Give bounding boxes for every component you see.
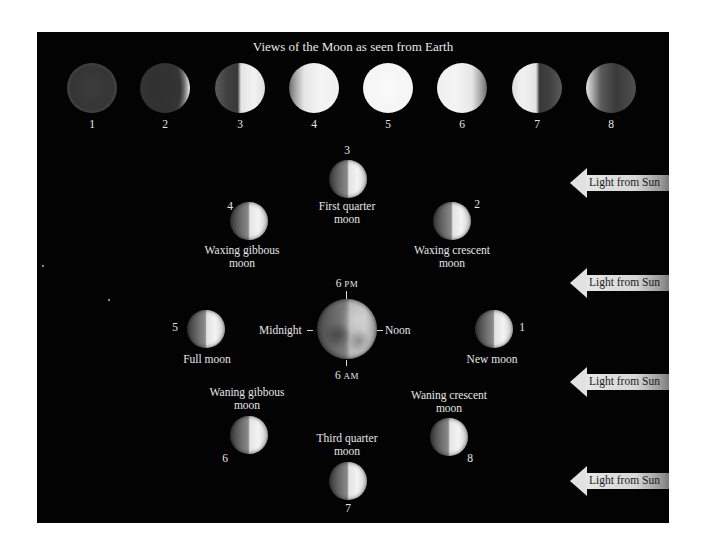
- orbit-moon-number-2: 2: [467, 198, 487, 210]
- orbit-moon-7: [329, 462, 367, 500]
- arrow-left-icon: [570, 168, 587, 198]
- tick-6pm: [346, 291, 347, 299]
- top-moon-1: [67, 63, 117, 113]
- tick-midnight: [307, 330, 313, 331]
- top-moon-number: 3: [230, 118, 250, 130]
- orbit-moon-3: [329, 160, 367, 198]
- arrow-left-icon: [570, 367, 587, 397]
- star-dot: [108, 299, 110, 301]
- orbit-moon-number-3: 3: [337, 144, 357, 156]
- top-moon-number: 2: [155, 118, 175, 130]
- orbit-label-1: New moon: [442, 353, 542, 366]
- midnight-label: Midnight: [259, 324, 302, 337]
- orbit-label-5: Full moon: [157, 353, 257, 366]
- top-moon-number: 5: [378, 118, 398, 130]
- orbit-label-4: Waxing gibbous moon: [192, 244, 292, 270]
- orbit-label-3: First quarter moon: [297, 200, 397, 226]
- top-moon-4: [289, 63, 339, 113]
- orbit-moon-6: [230, 416, 268, 454]
- top-moon-8: [586, 63, 636, 113]
- top-moon-6: [437, 63, 487, 113]
- top-moon-7: [512, 63, 562, 113]
- arrow-left-icon: [570, 466, 587, 496]
- diagram-title: Views of the Moon as seen from Earth: [37, 39, 669, 55]
- earth: [317, 299, 377, 359]
- orbit-label-6: Waning gibbous moon: [197, 386, 297, 412]
- star-dot: [42, 265, 44, 267]
- orbit-moon-number-8: 8: [460, 452, 480, 464]
- orbit-label-8: Waning crescent moon: [399, 389, 499, 415]
- orbit-moon-number-5: 5: [165, 321, 185, 333]
- time-label-6am: 6 AM: [317, 369, 377, 383]
- top-moon-number: 4: [304, 118, 324, 130]
- sun-light-arrow: Light from Sun: [570, 466, 669, 496]
- time-label-6pm: 6 PM: [317, 277, 377, 291]
- top-moon-2: [140, 63, 190, 113]
- arrow-left-icon: [570, 268, 587, 298]
- sun-light-arrow: Light from Sun: [570, 268, 669, 298]
- orbit-label-2: Waxing crescent moon: [402, 244, 502, 270]
- noon-label: Noon: [385, 324, 411, 337]
- orbit-moon-8: [430, 418, 468, 456]
- orbit-moon-2: [433, 202, 471, 240]
- orbit-moon-5: [187, 310, 225, 348]
- sun-light-arrow: Light from Sun: [570, 168, 669, 198]
- orbit-moon-4: [230, 202, 268, 240]
- tick-noon: [377, 330, 383, 331]
- top-moon-number: 1: [82, 118, 102, 130]
- orbit-moon-number-6: 6: [215, 452, 235, 464]
- orbit-label-7: Third quarter moon: [297, 432, 397, 458]
- orbit-moon-number-1: 1: [512, 321, 532, 333]
- moon-phases-diagram: Views of the Moon as seen from Earth 1 2…: [37, 32, 669, 523]
- top-moon-3: [215, 63, 265, 113]
- top-moon-number: 7: [527, 118, 547, 130]
- top-moon-number: 8: [601, 118, 621, 130]
- tick-6am: [346, 360, 347, 366]
- orbit-moon-number-7: 7: [338, 502, 358, 514]
- sun-light-arrow: Light from Sun: [570, 367, 669, 397]
- top-moon-5: [363, 63, 413, 113]
- top-moon-number: 6: [452, 118, 472, 130]
- orbit-moon-1: [475, 310, 513, 348]
